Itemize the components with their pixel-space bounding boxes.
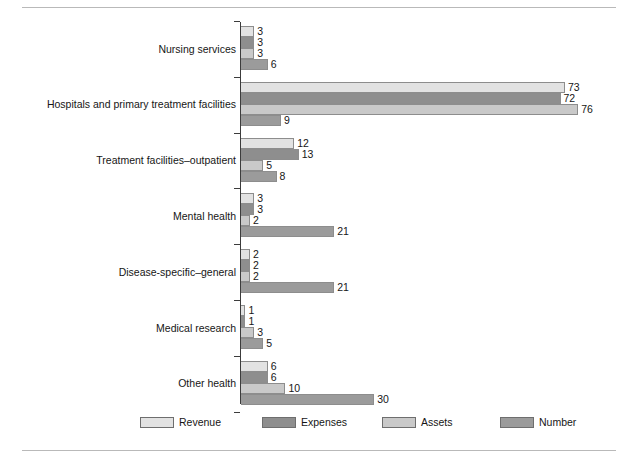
category-label: Medical research (16, 323, 236, 334)
category-label: Disease-specific–general (16, 267, 236, 278)
bar-value-label: 21 (337, 225, 349, 237)
axis-tick (234, 244, 240, 245)
bar-value-label: 5 (266, 337, 272, 349)
bar-value-label: 9 (284, 114, 290, 126)
bar-value-label: 10 (288, 382, 300, 394)
category-label: Treatment facilities–outpatient (16, 155, 236, 166)
bar-expenses (241, 372, 268, 383)
legend-label: Assets (421, 416, 453, 428)
bar-value-label: 3 (257, 326, 263, 338)
bar-number (241, 171, 277, 182)
axis-tick (234, 21, 240, 22)
bar-value-label: 6 (271, 58, 277, 70)
axis-tick (234, 188, 240, 189)
figure-top-rule (22, 7, 616, 8)
bar-value-label: 1 (248, 315, 254, 327)
bar-revenue (241, 361, 268, 372)
plot-area: Nursing services3336Hospitals and primar… (0, 18, 638, 408)
axis-tick (234, 300, 240, 301)
bar-value-label: 76 (581, 103, 593, 115)
bar-revenue (241, 26, 254, 37)
bar-value-label: 30 (377, 393, 389, 405)
bar-assets (241, 160, 263, 171)
bar-assets (241, 327, 254, 338)
bar-number (241, 226, 334, 237)
figure-bottom-rule (22, 450, 616, 451)
legend-swatch-icon (262, 417, 296, 428)
axis-tick (234, 356, 240, 357)
bar-revenue (241, 193, 254, 204)
bar-number (241, 394, 374, 405)
bar-revenue (241, 249, 250, 260)
chart-figure: Nursing services3336Hospitals and primar… (0, 0, 638, 470)
bar-assets (241, 271, 250, 282)
axis-tick (234, 133, 240, 134)
bar-revenue (241, 138, 294, 149)
bar-expenses (241, 93, 561, 104)
legend-swatch-icon (140, 417, 174, 428)
bar-revenue (241, 305, 245, 316)
bar-expenses (241, 316, 245, 327)
bar-value-label: 3 (257, 47, 263, 59)
bar-value-label: 2 (253, 270, 259, 282)
bar-assets (241, 48, 254, 59)
legend-item-assets[interactable]: Assets (382, 414, 453, 430)
bar-expenses (241, 37, 254, 48)
bar-value-label: 6 (271, 371, 277, 383)
chart-legend: RevenueExpensesAssetsNumber (0, 414, 638, 432)
bar-value-label: 72 (564, 92, 576, 104)
bar-number (241, 282, 334, 293)
bar-expenses (241, 260, 250, 271)
bar-assets (241, 383, 285, 394)
bar-value-label: 21 (337, 281, 349, 293)
legend-label: Expenses (301, 416, 347, 428)
legend-item-number[interactable]: Number (500, 414, 576, 430)
bar-revenue (241, 82, 565, 93)
bar-number (241, 338, 263, 349)
bar-assets (241, 104, 578, 115)
category-label: Mental health (16, 211, 236, 222)
legend-swatch-icon (382, 417, 416, 428)
bar-assets (241, 215, 250, 226)
legend-item-expenses[interactable]: Expenses (262, 414, 347, 430)
bar-value-label: 2 (253, 214, 259, 226)
category-label: Other health (16, 378, 236, 389)
bar-value-label: 8 (280, 170, 286, 182)
bar-value-label: 13 (302, 148, 314, 160)
legend-label: Revenue (179, 416, 221, 428)
bar-number (241, 115, 281, 126)
axis-tick (234, 412, 240, 413)
legend-item-revenue[interactable]: Revenue (140, 414, 221, 430)
category-label: Nursing services (16, 44, 236, 55)
legend-label: Number (539, 416, 576, 428)
category-label: Hospitals and primary treatment faciliti… (16, 99, 236, 110)
legend-swatch-icon (500, 417, 534, 428)
axis-tick (234, 77, 240, 78)
bar-number (241, 59, 268, 70)
bar-value-label: 5 (266, 159, 272, 171)
